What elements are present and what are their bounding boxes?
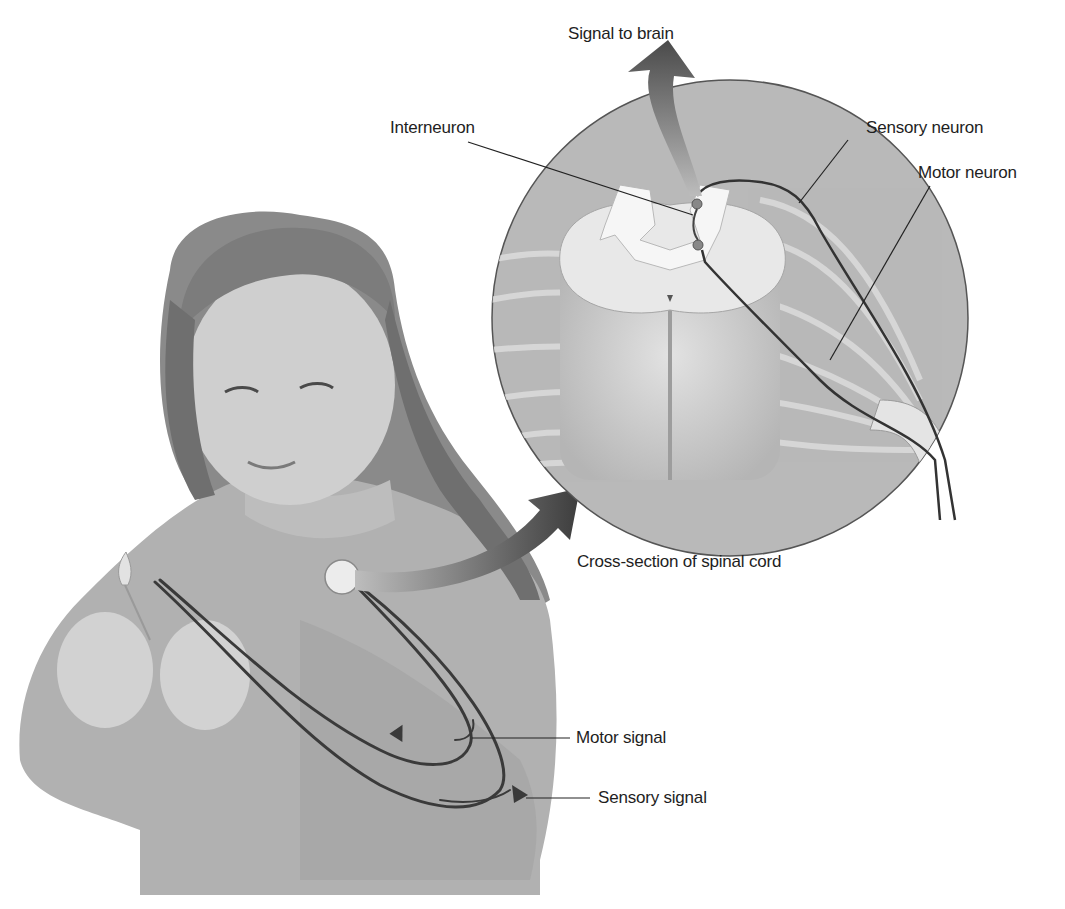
spinal-location-marker	[325, 560, 359, 594]
spinal-cord-inset	[490, 80, 968, 560]
motor-neuron-body	[693, 240, 703, 250]
girl-figure	[19, 212, 556, 895]
label-sensory-neuron: Sensory neuron	[866, 118, 983, 138]
label-motor-signal: Motor signal	[576, 728, 666, 748]
left-fist	[57, 612, 153, 728]
face	[185, 265, 395, 505]
interneuron-body	[692, 199, 702, 209]
label-sensory-signal: Sensory signal	[598, 788, 707, 808]
label-signal-to-brain: Signal to brain	[568, 24, 674, 44]
right-fist	[160, 620, 250, 730]
label-cross-section: Cross-section of spinal cord	[577, 552, 781, 572]
label-motor-neuron: Motor neuron	[918, 163, 1017, 183]
label-interneuron: Interneuron	[390, 118, 475, 138]
